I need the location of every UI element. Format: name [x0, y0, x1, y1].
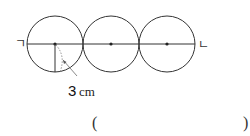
radius-unit: cm [79, 84, 95, 99]
circles-diagram: ㄱ ㄴ 3 cm ( ) [0, 0, 250, 136]
center-point-2 [109, 42, 112, 45]
answer-blank[interactable] [100, 112, 240, 132]
radius-indicator-dotted [56, 45, 62, 72]
point-label-right: ㄴ [198, 38, 209, 52]
answer-paren-open: ( [92, 114, 97, 132]
answer-paren-close: ) [243, 114, 248, 132]
point-label-left: ㄱ [15, 37, 26, 51]
center-point-3 [165, 42, 168, 45]
radius-value: 3 [68, 82, 76, 99]
